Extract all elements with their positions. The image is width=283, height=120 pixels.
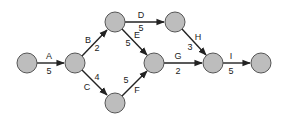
node-3: [105, 12, 125, 32]
label-i: I: [230, 51, 233, 61]
label-g: G: [174, 51, 181, 61]
duration-a: 5: [46, 66, 51, 76]
duration-e: 5: [125, 38, 130, 48]
node-2: [65, 53, 85, 73]
duration-h: 3: [187, 42, 192, 52]
node-8: [251, 53, 271, 73]
label-b: B: [85, 35, 91, 45]
label-h: H: [195, 32, 202, 42]
node-5: [144, 53, 164, 73]
node-7: [203, 53, 223, 73]
node-4: [165, 12, 185, 32]
label-e: E: [134, 30, 140, 40]
label-f: F: [134, 85, 140, 95]
network-diagram: A 5 B 2 C 4 D 5 E 5 F 5 G 2 H 3 I 5: [0, 0, 283, 120]
duration-f: 5: [123, 75, 128, 85]
duration-c: 4: [94, 72, 99, 82]
labels: A 5 B 2 C 4 D 5 E 5 F 5 G 2 H 3 I 5: [46, 10, 234, 95]
label-d: D: [138, 10, 145, 20]
duration-g: 2: [175, 66, 180, 76]
node-1: [17, 53, 37, 73]
label-a: A: [46, 51, 52, 61]
label-c: C: [84, 82, 91, 92]
duration-b: 2: [94, 43, 99, 53]
node-6: [105, 93, 125, 113]
duration-i: 5: [228, 66, 233, 76]
